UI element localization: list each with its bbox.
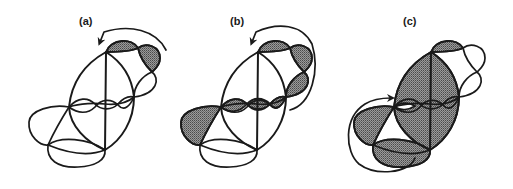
knot-skeleton-b [181,41,312,167]
panel-label-c: (c) [403,15,417,27]
panel-label-b: (b) [230,15,244,27]
panel-label-a: (a) [79,15,93,27]
knot-diagram-figure: (a) (b) (c) [0,0,513,189]
knot-skeleton-a [29,41,160,167]
panel-b: (b) [181,15,315,167]
panel-c: (c) [348,15,485,172]
panel-a: (a) [29,15,166,167]
